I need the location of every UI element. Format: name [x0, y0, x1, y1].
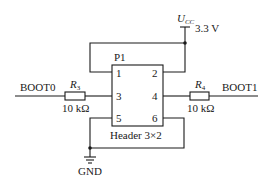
boot-config-schematic: UCC 3.3 V P1 1 2 3 4 5 6 Header 3×2 BOOT…: [0, 0, 272, 190]
pin-label-1: 1: [116, 67, 122, 79]
gnd-label: GND: [78, 165, 102, 177]
pin-label-5: 5: [116, 112, 122, 124]
vcc-net-wires: [90, 41, 187, 72]
resistor-r3: [65, 92, 85, 100]
ground-icon: [84, 157, 96, 163]
pin2-wire: [163, 43, 185, 72]
r3-value: 10 kΩ: [62, 102, 89, 114]
r3-ref: R3: [69, 78, 81, 92]
vcc-supply: UCC 3.3 V: [177, 12, 219, 43]
pin1-wire: [90, 43, 185, 72]
header-ref: P1: [114, 51, 126, 63]
vcc-junction-dot: [183, 41, 187, 45]
header-p1: P1 1 2 3 4 5 6 Header 3×2: [110, 51, 163, 141]
pin-label-6: 6: [152, 112, 158, 124]
r4-value: 10 kΩ: [187, 102, 214, 114]
gnd-net: GND: [78, 118, 184, 177]
boot1-net: R4 10 kΩ BOOT1: [163, 78, 258, 114]
pin-label-4: 4: [152, 90, 158, 102]
boot1-label: BOOT1: [222, 81, 257, 93]
boot0-label: BOOT0: [20, 81, 56, 93]
pin-label-3: 3: [116, 90, 122, 102]
resistor-r4: [190, 92, 209, 100]
header-name: Header 3×2: [110, 129, 162, 141]
boot0-net: BOOT0 R3 10 kΩ: [15, 78, 112, 114]
pin-label-2: 2: [152, 67, 158, 79]
pin5-wire: [90, 118, 112, 148]
vcc-label: UCC: [177, 12, 195, 26]
r4-ref: R4: [194, 78, 206, 92]
vcc-voltage: 3.3 V: [195, 22, 219, 34]
